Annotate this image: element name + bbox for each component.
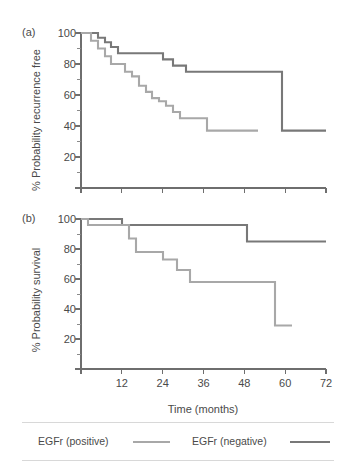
panel-b-curve-egfr-positive — [81, 219, 292, 326]
figure-svg: (a) % Probability recurrence free 100 80… — [0, 0, 356, 466]
panel-b-y-ticklabels: 100 80 60 40 20 — [58, 213, 76, 345]
ytick-label: 80 — [64, 58, 76, 70]
xtick-label: 24 — [157, 377, 169, 389]
panel-a-label: (a) — [22, 26, 35, 38]
ytick-label: 40 — [64, 303, 76, 315]
legend-label-egfr-negative: EGFr (negative) — [192, 435, 267, 447]
panel-b-ylabel: % Probability survival — [30, 248, 42, 353]
panel-a-y-ticklabels: 100 80 60 40 20 — [58, 27, 76, 163]
panel-b: (b) % Probability survival 100 80 60 40 … — [22, 212, 332, 389]
panel-a: (a) % Probability recurrence free 100 80… — [22, 26, 326, 193]
legend: EGFr (positive) EGFr (negative) — [22, 422, 334, 460]
x-axis-title: Time (months) — [168, 403, 239, 415]
ytick-label: 20 — [64, 333, 76, 345]
xtick-label: 36 — [197, 377, 209, 389]
ytick-label: 100 — [58, 213, 76, 225]
ytick-label: 60 — [64, 273, 76, 285]
legend-item-egfr-positive: EGFr (positive) — [38, 435, 170, 447]
xtick-label: 72 — [320, 377, 332, 389]
xtick-label: 48 — [238, 377, 250, 389]
xtick-label: 60 — [279, 377, 291, 389]
panel-a-ylabel: % Probability recurrence free — [30, 49, 42, 191]
panel-a-x-ticks — [81, 188, 326, 193]
ytick-label: 20 — [64, 151, 76, 163]
kaplan-meier-figure: (a) % Probability recurrence free 100 80… — [0, 0, 356, 466]
ytick-label: 100 — [58, 27, 76, 39]
panel-b-curve-egfr-negative — [81, 219, 326, 242]
xtick-label: 12 — [116, 377, 128, 389]
legend-label-egfr-positive: EGFr (positive) — [38, 435, 109, 447]
panel-a-curve-egfr-negative — [81, 33, 326, 131]
panel-b-x-ticks — [81, 369, 326, 374]
panel-b-label: (b) — [22, 212, 35, 224]
ytick-label: 80 — [64, 243, 76, 255]
legend-item-egfr-negative: EGFr (negative) — [192, 435, 330, 447]
ytick-label: 60 — [64, 89, 76, 101]
panel-a-axis-lines — [81, 33, 326, 188]
ytick-label: 40 — [64, 120, 76, 132]
panel-a-curve-egfr-positive — [81, 33, 258, 131]
panel-a-y-minor-ticks — [77, 49, 81, 173]
panel-b-y-minor-ticks — [77, 234, 81, 354]
panel-b-x-ticklabels: 12 24 36 48 60 72 — [116, 377, 332, 389]
